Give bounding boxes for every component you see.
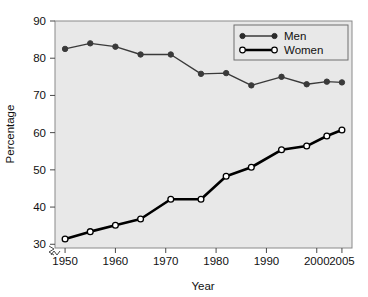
data-point-men <box>339 80 344 85</box>
data-point-men <box>138 52 143 57</box>
y-tick-label: 90 <box>33 15 46 27</box>
data-point-women <box>113 222 119 228</box>
data-point-men <box>279 74 284 79</box>
data-point-men <box>249 83 254 88</box>
data-point-women <box>62 236 68 242</box>
data-point-men <box>62 46 67 51</box>
data-point-men <box>113 44 118 49</box>
y-tick-label: 40 <box>33 201 46 213</box>
data-point-women <box>223 173 229 179</box>
y-tick-label: 60 <box>33 127 46 139</box>
x-tick-label: 1960 <box>103 255 129 267</box>
y-tick-label: 80 <box>33 52 46 64</box>
y-tick-label: 30 <box>33 238 46 250</box>
x-tick-label: 1950 <box>52 255 78 267</box>
legend-label-women: Women <box>284 44 323 56</box>
data-point-women <box>279 147 285 153</box>
legend: Men Women <box>234 25 348 60</box>
data-point-women <box>339 127 345 133</box>
x-tick-label: 1990 <box>254 255 280 267</box>
x-tick-label: 2005 <box>329 255 355 267</box>
data-point-men <box>88 41 93 46</box>
x-axis-title: Year <box>191 280 214 292</box>
data-point-women <box>198 196 204 202</box>
y-tick-label: 70 <box>33 89 46 101</box>
data-point-women <box>138 216 144 222</box>
data-point-men <box>304 82 309 87</box>
chart-figure: 30405060708090 1950196019701980199020002… <box>0 0 368 297</box>
data-point-women <box>304 143 310 149</box>
x-tick-label: 2000 <box>304 255 330 267</box>
data-point-women <box>324 133 330 139</box>
legend-marker-women-left <box>240 47 246 53</box>
data-point-men <box>223 70 228 75</box>
legend-marker-men-left <box>240 33 245 38</box>
chart-svg: 30405060708090 1950196019701980199020002… <box>0 0 368 297</box>
legend-marker-men-right <box>272 33 277 38</box>
data-point-women <box>168 196 174 202</box>
y-tick-label: 50 <box>33 164 46 176</box>
data-point-men <box>198 71 203 76</box>
x-tick-label: 1980 <box>203 255 229 267</box>
data-point-men <box>168 52 173 57</box>
legend-marker-women-right <box>272 47 278 53</box>
data-point-men <box>324 79 329 84</box>
data-point-women <box>87 229 93 235</box>
data-point-women <box>248 164 254 170</box>
x-tick-label: 1970 <box>153 255 179 267</box>
legend-label-men: Men <box>284 30 306 42</box>
y-axis-title: Percentage <box>4 105 16 164</box>
